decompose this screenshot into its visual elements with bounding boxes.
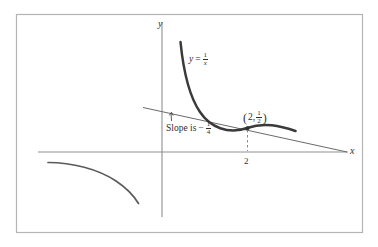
figure-container: y x 2 y = 1 x Slope is − 1 4 ( 2, 1 2 ) — [0, 0, 378, 247]
equation-equals-sign: = — [195, 55, 200, 65]
point-fraction: 1 2 — [256, 110, 262, 126]
equation-denominator: x — [203, 60, 208, 67]
equation-lhs: y — [189, 55, 193, 65]
point-denominator: 2 — [256, 118, 262, 125]
slope-fraction: 1 4 — [206, 121, 212, 137]
equation-fraction: 1 x — [203, 52, 209, 68]
curve-equation-label: y = 1 x — [189, 52, 208, 68]
slope-denominator: 4 — [206, 129, 212, 136]
equation-numerator: 1 — [203, 52, 209, 59]
slope-text: Slope is — [166, 124, 196, 134]
point-open-paren: ( — [243, 112, 247, 124]
slope-pointer-arrow — [171, 113, 172, 121]
tangency-point-label: ( 2, 1 2 ) — [243, 110, 267, 126]
slope-numerator: 1 — [206, 121, 212, 128]
x-axis-tick-label-2: 2 — [244, 157, 249, 166]
y-axis-label: y — [158, 19, 162, 29]
point-numerator: 1 — [256, 110, 262, 117]
slope-minus-sign: − — [198, 124, 203, 134]
point-x-value: 2, — [248, 113, 255, 123]
tangency-point-dot — [246, 126, 250, 130]
x-axis-label: x — [350, 146, 354, 156]
hyperbola-branch-third-quadrant — [48, 163, 139, 204]
slope-annotation-label: Slope is − 1 4 — [166, 121, 211, 137]
point-close-paren: ) — [263, 112, 267, 124]
